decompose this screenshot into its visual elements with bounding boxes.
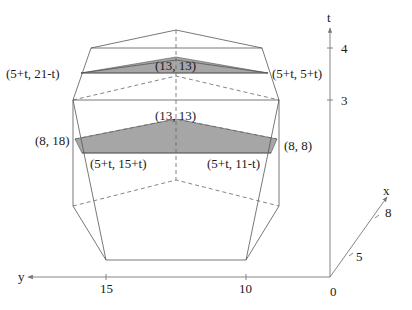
lower-bottom-left-label: (5+t, 15+t) — [90, 156, 147, 171]
upper-left-label: (5+t, 21-t) — [6, 66, 60, 81]
x-axis — [330, 197, 387, 277]
t-axis-label: t — [327, 10, 331, 25]
t-tick-label-4: 4 — [341, 41, 348, 56]
y-tick-label-10: 10 — [239, 281, 252, 296]
lower-apex-label: (13, 13) — [155, 108, 196, 123]
origin-label: 0 — [330, 284, 337, 299]
t-tick-label-3: 3 — [341, 93, 348, 108]
bottom-dashed-edge — [73, 180, 279, 206]
y-tick-label-15: 15 — [100, 281, 113, 296]
lower-right-label: (8, 8) — [284, 138, 312, 153]
right-bottom-edge — [246, 206, 279, 260]
upper-right-label: (5+t, 5+t) — [272, 66, 322, 81]
x-tick-5 — [349, 253, 353, 256]
lower-bottom-right-label: (5+t, 11-t) — [207, 156, 260, 171]
x-tick-8 — [375, 215, 379, 218]
left-bottom-edge — [73, 206, 106, 260]
x-tick-label-8: 8 — [385, 205, 392, 220]
x-axis-label: x — [383, 183, 390, 198]
x-tick-label-5: 5 — [356, 249, 363, 264]
polytope-diagram: t 4 3 y 15 10 x 8 5 0 — [0, 0, 412, 310]
upper-apex-label: (13, 13) — [155, 58, 196, 73]
top-roof-edge — [91, 30, 262, 48]
left-slant-edge — [73, 100, 106, 260]
right-slant-edge — [246, 100, 279, 260]
left-upper-edge — [73, 48, 91, 100]
y-axis-label: y — [18, 269, 25, 284]
lower-left-label: (8, 18) — [35, 133, 70, 148]
